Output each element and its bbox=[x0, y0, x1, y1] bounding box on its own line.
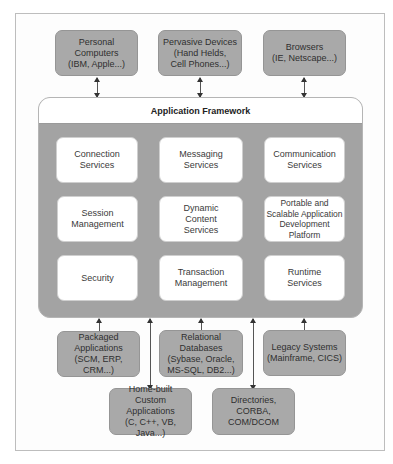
browsers-box: Browsers (IE, Netscape...) bbox=[263, 30, 346, 76]
service-connection: Connection Services bbox=[56, 137, 138, 183]
bidirectional-arrow-icon bbox=[200, 78, 201, 97]
directories-corba-box: Directories, CORBA, COM/DCOM bbox=[212, 388, 295, 435]
legacy-systems-box: Legacy Systems (Mainframe, CICS) bbox=[263, 330, 346, 376]
service-development-platform: Portable and Scalable Application Develo… bbox=[264, 196, 345, 242]
relational-databases-box: Relational Databases (Sybase, Oracle, MS… bbox=[159, 330, 243, 377]
bidirectional-arrow-icon bbox=[97, 78, 98, 97]
service-session-management: Session Management bbox=[57, 196, 138, 242]
framework-title: Application Framework bbox=[39, 98, 362, 124]
service-messaging: Messaging Services bbox=[159, 137, 243, 183]
packaged-applications-box: Packaged Applications (SCM, ERP, CRM...) bbox=[57, 331, 140, 377]
pervasive-devices-box: Pervasive Devices (Hand Helds, Cell Phon… bbox=[158, 30, 242, 76]
service-dynamic-content: Dynamic Content Services bbox=[159, 196, 243, 242]
bidirectional-arrow-icon bbox=[304, 78, 305, 97]
bidirectional-arrow-icon bbox=[253, 319, 254, 389]
service-runtime: Runtime Services bbox=[264, 255, 345, 301]
service-communication: Communication Services bbox=[264, 137, 345, 183]
service-security: Security bbox=[57, 255, 138, 301]
service-transaction-management: Transaction Management bbox=[159, 255, 243, 301]
bidirectional-arrow-icon bbox=[150, 319, 151, 389]
home-built-applications-box: Home-built Custom Applications (C, C++, … bbox=[109, 388, 192, 435]
personal-computers-box: Personal Computers (IBM, Apple...) bbox=[55, 30, 138, 76]
